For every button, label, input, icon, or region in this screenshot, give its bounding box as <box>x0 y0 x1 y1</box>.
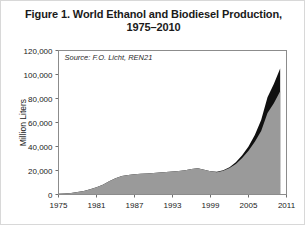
y-axis-tick-label: 0 <box>48 191 53 200</box>
x-axis-tick-label: 1975 <box>50 201 68 210</box>
x-axis-tick-label: 2011 <box>278 201 296 210</box>
area-series-group <box>59 69 281 195</box>
x-axis-tick-label: 1987 <box>126 201 144 210</box>
y-axis-title: Million Liters <box>18 99 28 146</box>
x-axis-tick-label: 1993 <box>164 201 182 210</box>
x-axis-tick-label: 2005 <box>240 201 258 210</box>
y-axis-tick-label: 100,000 <box>24 71 53 80</box>
source-note: Source: F.O. Licht, REN21 <box>65 53 153 62</box>
y-axis-tick-label: 80,000 <box>28 95 53 104</box>
x-axis-tick-label: 1999 <box>202 201 220 210</box>
y-axis-tick-label: 20,000 <box>28 167 53 176</box>
y-axis-tick-label: 120,000 <box>24 47 53 56</box>
y-axis-tick-label: 60,000 <box>28 119 53 128</box>
figure-container: Figure 1. World Ethanol and Biodiesel Pr… <box>0 0 305 225</box>
area-ethanol <box>59 91 281 194</box>
y-axis-tick-label: 40,000 <box>28 143 53 152</box>
x-axis: 1975198119871993199920052011 <box>50 195 296 210</box>
x-axis-tick-label: 1981 <box>88 201 106 210</box>
chart-plot: 020,00040,00060,00080,000100,000120,000 … <box>1 1 305 225</box>
y-axis: 020,00040,00060,00080,000100,000120,000 <box>24 47 59 200</box>
